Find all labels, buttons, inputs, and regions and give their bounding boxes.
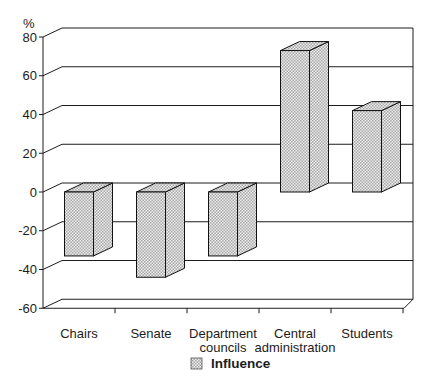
legend-swatch-influence-icon [191,358,202,369]
y-tick-label: -40 [18,262,37,277]
bar-senate [137,183,185,277]
bar-chairs [65,183,113,256]
category-label: Centraladministration [255,326,336,355]
bar-side-face [166,183,185,277]
grid-depth-line [43,144,62,153]
bar-side-face [310,42,329,192]
y-tick-label: 80 [23,30,37,45]
chart-canvas: % 806040200-20-40-60 ChairsSenateDepartm… [0,0,435,380]
grid-depth-line [43,67,62,76]
floor-depth-edge [404,299,413,308]
category-labels-group: ChairsSenateDepartmentcouncilsCentraladm… [60,326,393,355]
grid-depth-line [43,299,62,308]
bar-front-face [353,111,382,192]
bars-group [65,42,401,278]
grid-depth-line [43,183,62,192]
y-tick-labels-group: 806040200-20-40-60 [18,30,37,316]
grid-depth-line [43,261,62,270]
influence-bar-chart-figure: % 806040200-20-40-60 ChairsSenateDepartm… [0,0,435,380]
y-tick-label: 0 [30,185,37,200]
grid-depth-line [43,28,62,37]
y-tick-label: -60 [18,301,37,316]
y-tick-label: 20 [23,146,37,161]
category-label: Chairs [60,326,98,341]
grid-depth-line [43,222,62,231]
bar-central-administration [281,42,329,192]
bar-front-face [209,192,238,256]
category-label: Departmentcouncils [189,326,257,355]
legend: Influence [191,356,271,371]
y-tick-label: 60 [23,68,37,83]
bar-department-councils [209,183,257,256]
bar-students [353,102,401,192]
bar-side-face [238,183,257,256]
bar-side-face [94,183,113,256]
legend-label: Influence [211,356,271,371]
y-tick-label: -20 [18,223,37,238]
category-label: Senate [130,326,171,341]
bar-front-face [137,192,166,277]
bar-side-face [382,102,401,192]
grid-depth-line [43,106,62,115]
y-tick-label: 40 [23,107,37,122]
bar-front-face [281,51,310,192]
category-label: Students [341,326,393,341]
bar-front-face [65,192,94,256]
